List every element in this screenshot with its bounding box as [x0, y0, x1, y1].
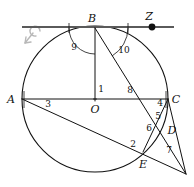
angle-label-8: 8	[127, 85, 133, 95]
angle-label-9: 9	[71, 42, 77, 52]
angle-label-1: 1	[98, 84, 104, 94]
point-label-a: A	[6, 93, 15, 106]
segment-ae-extended	[22, 99, 186, 174]
angle-label-6: 6	[146, 123, 152, 133]
point-dot-z	[149, 24, 156, 31]
point-label-e: E	[138, 158, 147, 171]
point-label-d: D	[167, 124, 177, 137]
point-label-o: O	[90, 103, 99, 116]
point-label-z: Z	[144, 10, 153, 23]
angle-label-2: 2	[130, 139, 136, 149]
geometry-figure: B Z A O C D E 1 2 3 4 5 6 7 8 9 10	[0, 0, 194, 187]
point-label-c: C	[172, 93, 181, 106]
angle-label-10: 10	[118, 45, 130, 55]
point-label-b: B	[87, 12, 96, 25]
angle-label-7: 7	[166, 145, 172, 155]
angle-label-4: 4	[157, 98, 163, 108]
watermark-scribble	[25, 26, 40, 43]
geometry-canvas: B Z A O C D E 1 2 3 4 5 6 7 8 9 10	[0, 0, 194, 187]
angle-label-5: 5	[155, 111, 161, 121]
angle-label-3: 3	[45, 99, 51, 109]
